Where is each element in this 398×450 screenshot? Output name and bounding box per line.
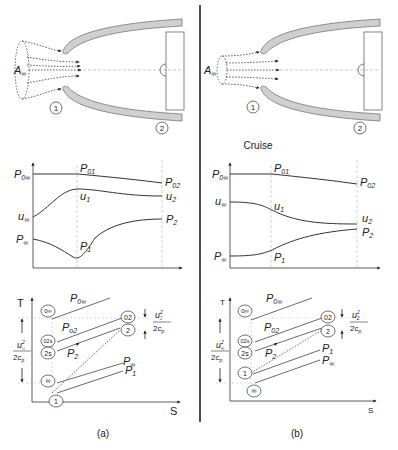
- svg-text:2cp: 2cp: [13, 353, 24, 363]
- state-1: 1: [49, 395, 63, 407]
- svg-text:2s: 2s: [241, 350, 249, 357]
- isobar-label-P0inf: P0∞: [70, 292, 86, 305]
- state-2s: 2s: [41, 347, 55, 359]
- isobar-label-P02: P02: [264, 321, 279, 334]
- velocity-curve: [33, 189, 162, 217]
- state-inf: ∞: [41, 375, 55, 387]
- state-2: 2: [121, 324, 135, 336]
- label-P02: P02: [165, 176, 180, 189]
- velocity-curve: [230, 202, 357, 224]
- intake-diagram-b: A∞ 1 2: [203, 19, 382, 134]
- svg-text:2cp: 2cp: [211, 353, 222, 363]
- label-uinf: u∞: [215, 195, 226, 208]
- svg-text:∞: ∞: [46, 377, 51, 384]
- svg-text:0∞: 0∞: [241, 308, 249, 314]
- label-u2: u2: [362, 212, 372, 225]
- panel-b: A∞ 1 2 Cruise P0∞ P01 P02 u∞ u1 u2 P∞ P1…: [203, 19, 382, 439]
- kinetic-energy-2-label: u22 2cp: [153, 309, 171, 334]
- state-02s: 02s: [41, 335, 55, 347]
- label-P02: P02: [360, 176, 375, 189]
- ts-chart-a: T S P0∞ Po2 P2 P∞ P1 0∞ 02s 2s ∞ 1: [13, 292, 180, 417]
- kinetic-energy-2-label: u22 2cp: [350, 309, 368, 334]
- state-2: 2: [321, 325, 335, 337]
- svg-text:02s: 02s: [44, 338, 53, 344]
- station-2-label: 2: [160, 124, 165, 133]
- svg-text:2: 2: [326, 328, 330, 335]
- s-axis-label: S: [170, 405, 177, 417]
- svg-text:0∞: 0∞: [44, 308, 52, 314]
- isobar-label-P2: P2: [265, 347, 276, 360]
- station-1-label: 1: [251, 103, 256, 112]
- label-uinf: u∞: [18, 210, 29, 223]
- svg-text:u22: u22: [155, 309, 163, 321]
- label-u1: u1: [274, 200, 284, 213]
- diffusion-path: [251, 330, 322, 373]
- isobar-Pinf: [57, 363, 123, 383]
- label-P1: P1: [80, 240, 91, 253]
- svg-text:u2∞: u2∞: [216, 339, 225, 351]
- svg-text:2s: 2s: [44, 350, 52, 357]
- label-P0inf: P0∞: [14, 168, 30, 181]
- kinetic-energy-inf-label: u2∞ 2cp: [13, 339, 31, 363]
- svg-text:02: 02: [324, 314, 332, 321]
- panel-a: A∞ 1 2 P0∞ P01 P02 u∞ u1 u2 P∞ P1 P2: [13, 19, 184, 439]
- state-2s: 2s: [238, 347, 252, 359]
- caption-a: (a): [97, 428, 109, 439]
- t-axis-label: T: [220, 298, 225, 307]
- isobar-Pinf: [255, 360, 320, 383]
- t-axis-label: T: [17, 297, 24, 309]
- isobar-P1: [57, 371, 123, 393]
- label-P2: P2: [362, 226, 373, 239]
- state-02: 02: [321, 311, 335, 323]
- isobar-label-P0inf: P0∞: [266, 292, 282, 305]
- lower-duct-wall: [261, 86, 380, 121]
- station-2-label: 2: [358, 124, 363, 133]
- label-P2: P2: [166, 213, 177, 226]
- static-pressure-curve: [33, 219, 162, 258]
- profile-chart-b: P0∞ P01 P02 u∞ u1 u2 P∞ P1 P2: [212, 160, 380, 268]
- profile-chart-a: P0∞ P01 P02 u∞ u1 u2 P∞ P1 P2: [14, 160, 182, 268]
- capture-area-ellipse: [217, 56, 227, 84]
- svg-text:u22: u22: [352, 309, 360, 321]
- state-02: 02: [121, 311, 135, 323]
- state-02s: 02s: [238, 335, 252, 347]
- label-u1: u1: [80, 190, 90, 203]
- svg-text:2cp: 2cp: [350, 324, 361, 334]
- state-0inf: 0∞: [41, 305, 55, 317]
- svg-text:2cp: 2cp: [153, 324, 164, 334]
- panel-title-cruise: Cruise: [244, 140, 273, 151]
- engine-face: [166, 32, 184, 110]
- caption-b: (b): [291, 428, 303, 439]
- label-Pinf: P∞: [16, 233, 28, 246]
- svg-text:02s: 02s: [241, 338, 250, 344]
- upper-duct-wall: [261, 19, 380, 54]
- engine-face: [364, 32, 382, 110]
- label-P01: P01: [80, 162, 95, 175]
- state-inf: ∞: [247, 385, 261, 397]
- isobar-label-P2: P2: [67, 347, 78, 360]
- label-P0inf: P0∞: [212, 168, 228, 181]
- total-pressure-curve: [33, 174, 162, 183]
- isobar-P1: [253, 350, 320, 374]
- isobar-label-P02: Po2: [62, 321, 77, 334]
- total-pressure-curve: [230, 174, 357, 184]
- svg-text:02: 02: [124, 314, 132, 321]
- label-P1: P1: [274, 251, 285, 264]
- svg-text:1: 1: [54, 398, 58, 405]
- label-P01: P01: [274, 162, 289, 175]
- ts-chart-b: T S P0∞ P02 P2 P1 P∞ 0∞ 02s 2s 1 ∞ 02 2: [211, 292, 376, 415]
- kinetic-energy-inf-label: u2∞ 2cp: [211, 339, 229, 363]
- figure-canvas: A∞ 1 2 P0∞ P01 P02 u∞ u1 u2 P∞ P1 P2: [0, 0, 398, 450]
- label-u2: u2: [166, 190, 176, 203]
- capture-area-label: A∞: [13, 64, 26, 77]
- state-0inf: 0∞: [238, 305, 252, 317]
- streamlines: [222, 52, 279, 88]
- station-1-label: 1: [54, 104, 59, 113]
- svg-text:1: 1: [243, 370, 247, 377]
- svg-text:∞: ∞: [252, 387, 257, 394]
- capture-area-label: A∞: [203, 64, 216, 77]
- label-Pinf: P∞: [214, 250, 226, 263]
- isobar-label-Pinf: P∞: [322, 354, 334, 367]
- intake-diagram-a: A∞ 1 2: [13, 19, 184, 134]
- svg-text:2: 2: [126, 327, 130, 334]
